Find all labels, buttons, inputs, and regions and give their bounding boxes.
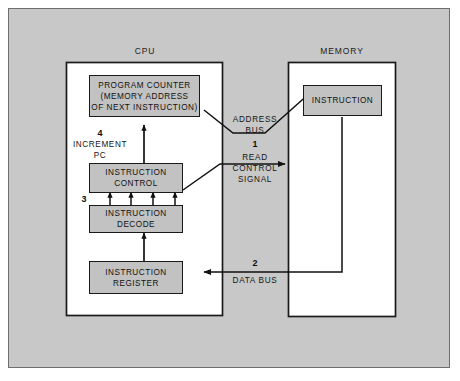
address-bus-label-line-2: BUS bbox=[222, 125, 288, 136]
instruction-register-line-1: INSTRUCTION bbox=[105, 267, 166, 278]
memory-instruction-line-1: INSTRUCTION bbox=[312, 95, 373, 106]
data-bus-label-line-1: DATA BUS bbox=[222, 275, 288, 286]
increment-pc-label-line-1: INCREMENT bbox=[62, 139, 138, 150]
program-counter-line-3: OF NEXT INSTRUCTION) bbox=[91, 102, 197, 113]
read-control-label-line-1: READ bbox=[222, 152, 288, 163]
program-counter-line-1: PROGRAM COUNTER bbox=[98, 80, 191, 91]
memory-instruction-box[interactable]: INSTRUCTION bbox=[303, 85, 382, 116]
instruction-control-line-1: INSTRUCTION bbox=[105, 167, 166, 178]
address-bus-label-line-1: ADDRESS bbox=[222, 114, 288, 125]
instruction-register-line-2: REGISTER bbox=[113, 278, 159, 289]
read-control-label-line-3: SIGNAL bbox=[222, 174, 288, 185]
instruction-decode-line-2: DECODE bbox=[117, 219, 155, 230]
diagram-canvas: CPU MEMORY PROGRAM COUNTER (MEMORY ADDRE… bbox=[0, 0, 460, 381]
instruction-control-line-2: CONTROL bbox=[114, 178, 158, 189]
increment-pc-step-number: 4 bbox=[76, 128, 124, 138]
instruction-decode-line-1: INSTRUCTION bbox=[105, 208, 166, 219]
decode-step-number: 3 bbox=[77, 194, 91, 204]
data-bus-step-number: 2 bbox=[222, 258, 288, 268]
program-counter-box[interactable]: PROGRAM COUNTER (MEMORY ADDRESS OF NEXT … bbox=[89, 75, 200, 117]
cpu-title: CPU bbox=[112, 46, 178, 56]
program-counter-line-2: (MEMORY ADDRESS bbox=[100, 91, 188, 102]
memory-title: MEMORY bbox=[309, 46, 375, 56]
read-control-step-number: 1 bbox=[222, 139, 288, 149]
read-control-label-line-2: CONTROL bbox=[222, 163, 288, 174]
connector-layer bbox=[0, 0, 460, 381]
increment-pc-label-line-2: PC bbox=[62, 150, 138, 161]
instruction-control-box[interactable]: INSTRUCTION CONTROL bbox=[89, 163, 183, 193]
instruction-register-box[interactable]: INSTRUCTION REGISTER bbox=[89, 261, 183, 294]
instruction-decode-box[interactable]: INSTRUCTION DECODE bbox=[89, 205, 183, 233]
